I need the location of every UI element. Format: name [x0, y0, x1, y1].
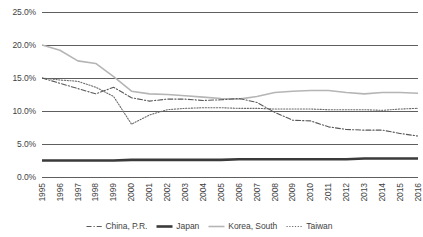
- x-tick-label: 2015: [396, 183, 405, 202]
- line-thick-swatch: [156, 223, 173, 230]
- y-tick-label: 10.0%: [12, 107, 36, 116]
- series-line-korea-south: [42, 45, 418, 99]
- x-tick-label: 2011: [324, 183, 333, 201]
- x-tick-label: 2008: [271, 183, 280, 202]
- x-tick-label: 2007: [253, 183, 262, 202]
- legend-item[interactable]: China, P.R.: [86, 222, 148, 231]
- series-line-china-p-r: [42, 78, 418, 136]
- x-tick-label: 2003: [181, 183, 190, 202]
- legend-label: Taiwan: [306, 222, 332, 231]
- x-tick-label: 2013: [360, 183, 369, 202]
- y-tick-label: 20.0%: [12, 41, 36, 50]
- line-dash-dot-swatch: [86, 223, 103, 230]
- line-dotted-swatch: [286, 223, 303, 230]
- x-tick-label: 2009: [288, 183, 297, 202]
- y-tick-label: 0.0%: [17, 173, 36, 182]
- series-line-japan: [42, 159, 418, 161]
- legend-label: Japan: [176, 222, 199, 231]
- x-tick-label: 1998: [91, 183, 100, 202]
- legend-item[interactable]: Taiwan: [286, 222, 332, 231]
- x-tick-label: 1996: [56, 183, 65, 202]
- x-tick-label: 2001: [145, 183, 154, 202]
- x-tick-label: 1997: [74, 183, 83, 202]
- x-tick-label: 1995: [38, 183, 47, 202]
- legend-label: Korea, South: [228, 222, 277, 231]
- chart-legend: China, P.R.JapanKorea, SouthTaiwan: [0, 218, 418, 234]
- x-tick-label: 2012: [342, 183, 351, 202]
- x-tick-label: 2002: [163, 183, 172, 202]
- line-solid-swatch: [208, 223, 225, 230]
- y-tick-label: 15.0%: [12, 74, 36, 83]
- x-tick-label: 2005: [217, 183, 226, 202]
- legend-label: China, P.R.: [106, 222, 148, 231]
- x-tick-label: 2004: [199, 183, 208, 202]
- series-line-taiwan: [42, 78, 418, 124]
- x-tick-label: 2006: [235, 183, 244, 202]
- y-axis: 0.0%5.0%10.0%15.0%20.0%25.0%: [0, 0, 40, 190]
- x-tick-label: 2016: [414, 183, 423, 202]
- plot-area: [42, 0, 418, 190]
- x-tick-label: 2010: [306, 183, 315, 202]
- legend-item[interactable]: Korea, South: [208, 222, 277, 231]
- y-tick-label: 5.0%: [17, 140, 36, 149]
- x-tick-label: 2000: [127, 183, 136, 202]
- y-tick-label: 25.0%: [12, 8, 36, 17]
- x-tick-label: 2014: [378, 183, 387, 202]
- x-tick-label: 1999: [109, 183, 118, 202]
- legend-item[interactable]: Japan: [156, 222, 199, 231]
- series-layer: [42, 0, 418, 190]
- x-axis: 1995199619971998199920002001200220032004…: [42, 179, 418, 217]
